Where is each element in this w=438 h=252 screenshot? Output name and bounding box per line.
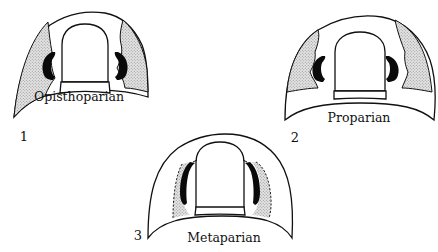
- glabella: [62, 24, 108, 82]
- panel-opisthoparian: Opisthoparian 1: [14, 12, 148, 144]
- occipital-ring: [195, 207, 245, 215]
- panel-3-number: 3: [134, 228, 142, 243]
- panel-metaparian: Metaparian 3: [134, 134, 293, 245]
- panel-1-label: Opisthoparian: [34, 89, 124, 104]
- panel-2-number: 2: [291, 130, 299, 145]
- free-cheek-left: [287, 30, 319, 92]
- panel-3-label: Metaparian: [187, 230, 261, 245]
- glabella: [335, 32, 385, 91]
- panel-proparian: Proparian 2: [285, 16, 435, 145]
- occipital-ring: [334, 91, 386, 99]
- glabella: [196, 142, 244, 208]
- panel-2-label: Proparian: [328, 110, 391, 125]
- panel-1-number: 1: [20, 129, 28, 144]
- diagram-canvas: Opisthoparian 1 Proparian 2 Metaparian 3: [0, 0, 438, 252]
